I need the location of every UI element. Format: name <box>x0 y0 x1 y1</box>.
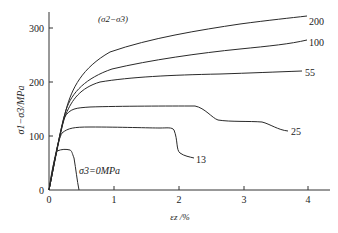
y-tick-0: 0 <box>39 185 44 196</box>
y-tick-200: 200 <box>29 77 44 88</box>
label-55: 55 <box>305 67 315 78</box>
y-axis-title: σ1−σ3/MPa <box>15 86 26 135</box>
curve-25 <box>49 106 288 190</box>
label-200: 200 <box>309 16 324 27</box>
confining-note: (σ2−σ3) <box>98 14 128 24</box>
label-13: 13 <box>196 154 206 165</box>
y-tick-100: 100 <box>29 131 44 142</box>
label-25: 25 <box>291 126 301 137</box>
x-tick-4: 4 <box>306 194 311 205</box>
x-tick-0: 0 <box>47 194 52 205</box>
stress-strain-chart: 0 100 200 300 0 1 2 3 4 σ1−σ3/MPa εz /% … <box>0 0 338 233</box>
x-axis-title: εz /% <box>170 212 189 222</box>
x-tick-2: 2 <box>177 194 182 205</box>
x-ticks: 0 1 2 3 4 <box>47 186 311 205</box>
curve-200 <box>49 16 307 190</box>
x-tick-1: 1 <box>112 194 117 205</box>
label-sigma3-0: σ3=0MPa <box>79 165 120 176</box>
curve-13 <box>49 127 194 190</box>
y-tick-300: 300 <box>29 23 44 34</box>
label-100: 100 <box>309 37 324 48</box>
x-tick-3: 3 <box>242 194 247 205</box>
